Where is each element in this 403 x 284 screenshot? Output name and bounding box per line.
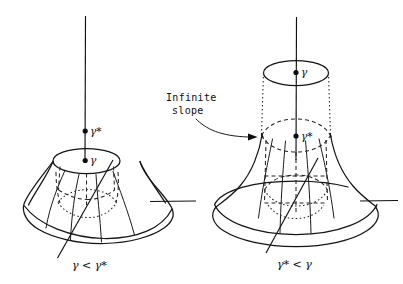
left-horizontal-axis (150, 201, 196, 202)
math-figure-svg: γ* γ γ < γ* (0, 0, 403, 284)
right-gamma-star-point (293, 133, 298, 138)
left-figure-caption: γ < γ* (72, 259, 107, 272)
right-horizontal-axis (360, 201, 398, 202)
right-figure-caption: γ* < γ (277, 258, 312, 271)
right-gamma-point (293, 70, 298, 75)
figure-canvas: γ* γ γ < γ* (0, 0, 403, 284)
left-gamma-label: γ (90, 154, 97, 166)
right-gamma-star-label: γ* (301, 130, 313, 142)
left-gamma-point (83, 158, 88, 163)
left-gamma-star-label: γ* (90, 125, 102, 137)
left-vertical-axis (85, 16, 86, 160)
infinite-slope-line2: slope (172, 105, 204, 116)
right-gamma-label: γ (301, 66, 308, 78)
left-gamma-star-point (83, 128, 88, 133)
infinite-slope-line1: Infinite (166, 92, 217, 103)
